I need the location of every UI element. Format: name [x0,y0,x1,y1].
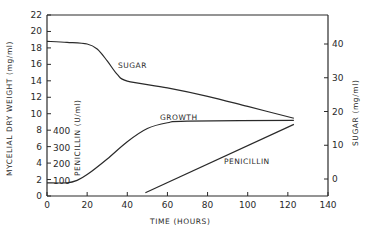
y-left-tick-label: 14 [31,76,43,86]
y-left-tick-label: 16 [31,59,43,69]
y-left-tick-label: 22 [31,10,42,20]
chart: 020406080100120140 0246810121416182022 1… [0,0,366,232]
y-left-tick-label: 8 [36,125,42,135]
x-axis-label: TIME (HOURS) [149,217,210,226]
y-left-tick-label: 12 [31,92,42,102]
series-line-penicillin [145,124,294,192]
y-ticks-right: 010203040 [324,39,344,184]
y-right-tick-label: 10 [332,140,344,150]
x-tick-label: 20 [81,200,93,210]
x-ticks: 020406080100120140 [44,192,337,210]
y-left-tick-label: 2 [36,175,42,185]
y-penicillin-tick-label: 200 [53,159,70,169]
y-right-tick-label: 30 [332,73,344,83]
x-tick-label: 0 [44,200,50,210]
y-right-tick-label: 40 [332,39,344,49]
y-penicillin-tick-label: 100 [53,176,70,186]
x-tick-label: 80 [202,200,214,210]
x-tick-label: 100 [239,200,256,210]
y-axis-left-label: MYCELIAL DRY WEIGHT (mg/ml) [5,41,14,176]
y-ticks-left: 0246810121416182022 [31,10,51,201]
annotation-sugar: SUGAR [118,61,147,70]
y-axis-right-label: SUGAR (mg/ml) [351,80,360,146]
y-left-tick-label: 20 [31,26,43,36]
y-axis-penicillin-label: PENICILLIN (U/ml) [73,99,82,176]
x-tick-label: 40 [122,200,134,210]
annotation-growth: GROWTH [160,113,198,122]
y-ticks-penicillin: 100200300400 [53,126,70,186]
y-left-tick-label: 6 [36,142,42,152]
x-tick-label: 60 [162,200,174,210]
y-left-tick-label: 0 [36,191,42,201]
y-right-tick-label: 20 [332,107,344,117]
series-line-sugar [47,41,294,118]
y-left-tick-label: 18 [31,43,43,53]
series-line-growth [47,120,294,183]
x-tick-label: 140 [319,200,336,210]
x-tick-label: 120 [279,200,296,210]
y-penicillin-tick-label: 400 [53,126,70,136]
y-penicillin-tick-label: 300 [53,143,70,153]
annotation-penicillin: PENICILLIN [224,157,270,166]
y-left-tick-label: 4 [36,158,42,168]
y-left-tick-label: 10 [31,109,43,119]
y-right-tick-label: 0 [332,174,338,184]
